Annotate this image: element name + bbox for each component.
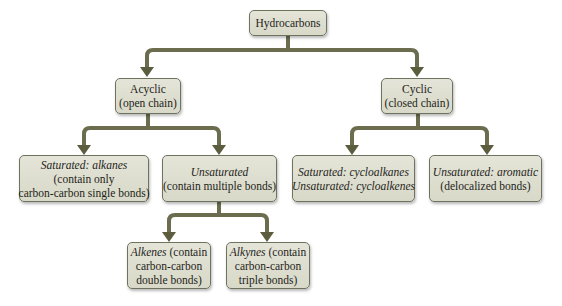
node-label: Alkenes (131, 246, 167, 258)
node-label-rest: (contain (167, 246, 208, 258)
node-label: Alkynes (230, 246, 266, 258)
node-label-line: Alkenes (contain (131, 245, 207, 259)
node-sublabel: (closed chain) (385, 96, 450, 110)
node-sublabel: carbon-carbon single bonds) (19, 186, 150, 200)
node-sublabel: (contain only (54, 172, 115, 186)
node-label-rest: (contain (266, 246, 307, 258)
node-saturated-alkanes: Saturated: alkanes (contain only carbon-… (19, 155, 149, 202)
node-sublabel: triple bonds) (239, 273, 297, 287)
node-aromatic: Unsaturated: aromatic (delocalized bonds… (429, 155, 542, 202)
node-unsaturated: Unsaturated (contain multiple bonds) (162, 155, 277, 202)
node-sublabel: (delocalized bonds) (440, 179, 530, 193)
node-label: Unsaturated: aromatic (433, 165, 538, 179)
node-sublabel: carbon-carbon (136, 259, 202, 273)
node-alkynes: Alkynes (contain carbon-carbon triple bo… (226, 242, 310, 289)
node-label: Unsaturated: cycloalkenes (292, 179, 415, 193)
node-cyclic: Cyclic (closed chain) (381, 78, 453, 114)
node-label: Saturated: alkanes (41, 158, 128, 172)
node-sublabel: carbon-carbon (235, 259, 301, 273)
node-label: Saturated: cycloalkanes (298, 165, 409, 179)
node-label: Cyclic (402, 82, 432, 96)
node-acyclic: Acyclic (open chain) (115, 78, 181, 114)
node-label: Hydrocarbons (255, 16, 320, 30)
node-sublabel: (open chain) (119, 96, 177, 110)
node-hydrocarbons: Hydrocarbons (249, 10, 327, 36)
node-sublabel: (contain multiple bonds) (163, 179, 276, 193)
node-label: Acyclic (130, 82, 166, 96)
node-sublabel: double bonds) (136, 273, 201, 287)
node-cycloalkanes-cycloalkenes: Saturated: cycloalkanes Unsaturated: cyc… (292, 155, 415, 202)
node-label: Unsaturated (191, 165, 249, 179)
node-label-line: Alkynes (contain (230, 245, 306, 259)
node-alkenes: Alkenes (contain carbon-carbon double bo… (127, 242, 211, 289)
